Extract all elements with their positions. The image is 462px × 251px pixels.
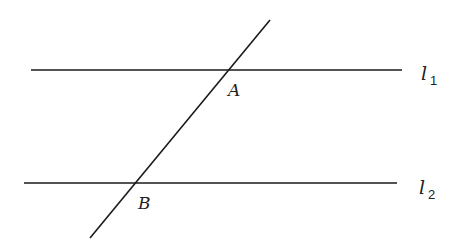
point-label-b: B — [137, 193, 151, 213]
line-label-l1-main: l — [421, 62, 427, 84]
line-label-l1-subscript: 1 — [430, 73, 437, 88]
parallel-lines-diagram: A B l 1 l 2 — [0, 0, 462, 251]
point-label-a: A — [226, 80, 240, 100]
transversal-line — [90, 20, 270, 238]
line-label-l1: l 1 — [421, 62, 437, 88]
line-label-l2-main: l — [419, 176, 425, 198]
line-label-l2-subscript: 2 — [428, 187, 435, 202]
line-label-l2: l 2 — [419, 176, 435, 202]
